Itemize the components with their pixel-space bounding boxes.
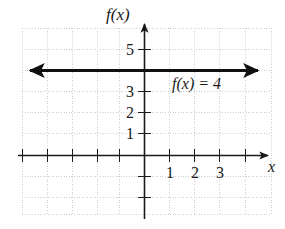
- function-annotation: f(x) = 4: [172, 76, 221, 92]
- x-tick-label-2: 2: [187, 165, 203, 181]
- x-axis: [18, 149, 268, 162]
- grid-lines: [22, 28, 272, 215]
- figure-canvas: f(x) x f(x) = 4 5 3 2 1 1 2 3: [0, 0, 285, 229]
- y-tick-label-2: 2: [118, 105, 134, 121]
- x-tick-label-1: 1: [162, 165, 178, 181]
- plot-svg: [0, 0, 285, 229]
- x-tick-label-3: 3: [212, 165, 228, 181]
- y-tick-label-3: 3: [118, 84, 134, 100]
- x-axis-label: x: [268, 159, 275, 175]
- y-axis: [138, 24, 151, 219]
- y-tick-label-5: 5: [118, 42, 134, 58]
- y-axis-label: f(x): [106, 6, 130, 23]
- y-tick-label-1: 1: [118, 126, 134, 142]
